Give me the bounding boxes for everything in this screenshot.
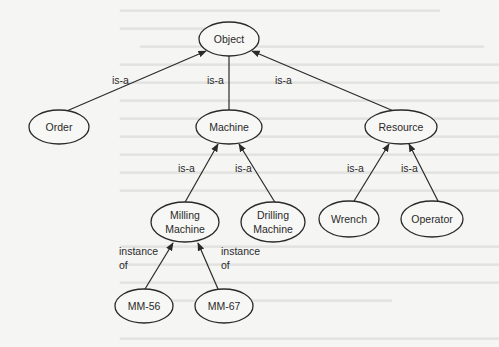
edge-milling-is-a-machine: is-a [178,144,218,204]
edge-label: is-a [112,74,129,86]
edge-machine-is-a-object: is-a [207,56,229,111]
edge-label-line2: of [221,259,230,271]
edge-order-is-a-object: is-a [62,51,206,113]
edge-label: is-a [207,74,224,86]
node-label: MM-67 [208,300,241,312]
node-order: Order [29,110,89,144]
arrow-icon [252,51,396,112]
node-label: Operator [411,213,453,225]
edge-label-line2: of [119,259,128,271]
node-drilling-machine: Drilling Machine [241,202,305,242]
edge-resource-is-a-object: is-a [252,51,396,112]
node-label: Object [214,33,244,45]
node-label: Resource [379,121,424,133]
arrow-icon [62,51,206,113]
node-label: Order [46,121,73,133]
edge-label-line1: instance [221,245,260,257]
arrow-icon [198,243,218,289]
edge-drilling-is-a-machine: is-a [235,144,276,204]
edge-label: is-a [275,74,292,86]
node-object: Object [199,22,259,56]
node-label-line1: Drilling [257,209,289,221]
node-label: Machine [209,121,249,133]
node-label: MM-56 [128,300,161,312]
node-resource: Resource [365,110,437,144]
node-machine: Machine [196,110,262,144]
node-wrench: Wrench [319,201,379,237]
class-hierarchy-diagram: is-a is-a is-a is-a is-a is-a is-a i [0,0,499,347]
arrow-icon [184,144,218,204]
edge-operator-is-a-resource: is-a [401,144,438,201]
arrow-icon [239,144,276,204]
edge-mm67-instance-of-milling: instance of [198,243,260,289]
node-operator: Operator [401,201,463,237]
diagram-page: ━━━━━━━━━━━━━━━━━━━━━━━━━━━━━━━━━━━━━━━━… [0,0,499,347]
node-label-line2: Machine [165,223,205,235]
edge-label: is-a [235,162,252,174]
node-mm-56: MM-56 [115,289,173,323]
edge-label: is-a [401,162,418,174]
edge-wrench-is-a-resource: is-a [347,144,389,201]
node-label: Wrench [331,213,367,225]
node-mm-67: MM-67 [195,289,253,323]
edge-mm56-instance-of-milling: instance of [119,243,173,289]
edge-label-line1: instance [119,245,158,257]
node-milling-machine: Milling Machine [151,202,219,242]
node-label-line1: Milling [170,209,200,221]
edge-label: is-a [347,162,364,174]
node-label-line2: Machine [253,223,293,235]
edge-label: is-a [178,162,195,174]
